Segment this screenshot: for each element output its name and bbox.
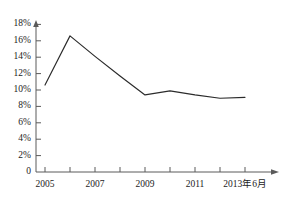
y-axis-tick-label: 10% [14,85,31,95]
data-series-line [45,36,245,98]
y-axis-tick-label: 18% [14,19,31,29]
x-axis-arrow-icon [271,169,279,175]
y-axis-tick-label: 16% [14,36,31,46]
y-axis-tick-label: 8% [18,101,31,111]
x-axis-tick-label: 2013年6月 [215,180,275,190]
x-axis-ticks [45,167,245,172]
y-axis-tick-label: 4% [18,134,31,144]
y-axis-arrow-icon [33,20,39,27]
y-axis-tick-label: 0 [26,167,31,177]
chart-plot-area [0,0,289,206]
line-chart: 18%16%14%12%10%8%6%4%2%0 200520072009201… [0,0,289,206]
y-axis-tick-label: 14% [14,52,31,62]
y-axis-tick-label: 6% [18,118,31,128]
y-axis-ticks [36,24,41,155]
y-axis-tick-label: 2% [18,151,31,161]
y-axis-tick-label: 12% [14,69,31,79]
